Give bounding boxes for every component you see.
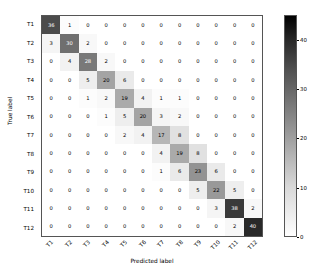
heatmap-cell: 0 bbox=[60, 108, 78, 126]
heatmap-cell: 0 bbox=[115, 199, 133, 217]
heatmap-cell: 0 bbox=[79, 181, 97, 199]
heatmap-cell: 2 bbox=[97, 89, 115, 107]
heatmap-cell: 0 bbox=[207, 108, 225, 126]
heatmap-cell: 0 bbox=[152, 199, 170, 217]
heatmap-cell: 0 bbox=[244, 108, 262, 126]
y-axis-tick-labels: T1T2T3T4T5T6T7T8T9T10T11T12 bbox=[0, 15, 38, 237]
heatmap-cell: 5 bbox=[225, 181, 243, 199]
heatmap-cell: 0 bbox=[115, 163, 133, 181]
colorbar-tick: 20 bbox=[297, 135, 307, 141]
x-axis-tick-wrapper: T8 bbox=[171, 238, 190, 256]
colorbar-tick: 40 bbox=[297, 37, 307, 43]
heatmap-cell: 0 bbox=[79, 108, 97, 126]
heatmap-cell: 0 bbox=[225, 126, 243, 144]
heatmap-cell: 0 bbox=[207, 71, 225, 89]
heatmap-cell: 0 bbox=[152, 16, 170, 34]
heatmap-cell: 0 bbox=[42, 71, 60, 89]
heatmap-cell: 0 bbox=[97, 218, 115, 236]
heatmap-cell: 0 bbox=[60, 144, 78, 162]
y-axis-tick: T5 bbox=[0, 89, 38, 108]
y-axis-tick: T8 bbox=[0, 145, 38, 164]
heatmap-cell: 0 bbox=[79, 16, 97, 34]
x-axis-tick-wrapper: T10 bbox=[208, 238, 227, 256]
x-axis-tick: T3 bbox=[82, 239, 91, 248]
x-axis-tick: T10 bbox=[209, 239, 221, 251]
heatmap-cell: 1 bbox=[97, 108, 115, 126]
heatmap-cell: 30 bbox=[60, 34, 78, 52]
heatmap-cell: 0 bbox=[42, 108, 60, 126]
heatmap-cell: 8 bbox=[189, 144, 207, 162]
heatmap-cell: 0 bbox=[60, 218, 78, 236]
heatmap-cell: 0 bbox=[189, 108, 207, 126]
x-axis-tick-wrapper: T3 bbox=[78, 238, 97, 256]
x-axis-tick: T1 bbox=[45, 239, 54, 248]
heatmap-cell: 3 bbox=[207, 199, 225, 217]
heatmap-cell-grid: 3610000000000330200000000004282000000000… bbox=[42, 16, 262, 236]
heatmap-cell: 2 bbox=[79, 34, 97, 52]
heatmap-cell: 0 bbox=[42, 181, 60, 199]
heatmap-cell: 0 bbox=[42, 163, 60, 181]
heatmap-cell: 0 bbox=[225, 163, 243, 181]
heatmap-cell: 1 bbox=[60, 16, 78, 34]
colorbar-tick: 0 bbox=[297, 234, 303, 240]
heatmap-cell: 0 bbox=[189, 71, 207, 89]
y-axis-tick: T7 bbox=[0, 126, 38, 145]
heatmap-cell: 8 bbox=[170, 126, 188, 144]
heatmap-cell: 5 bbox=[189, 181, 207, 199]
colorbar-gradient bbox=[284, 15, 297, 237]
heatmap-plot-area: 3610000000000330200000000004282000000000… bbox=[41, 15, 263, 237]
heatmap-cell: 0 bbox=[170, 71, 188, 89]
heatmap-cell: 0 bbox=[60, 199, 78, 217]
x-axis-tick-wrapper: T2 bbox=[60, 238, 79, 256]
heatmap-cell: 2 bbox=[170, 108, 188, 126]
heatmap-cell: 0 bbox=[97, 181, 115, 199]
heatmap-cell: 0 bbox=[97, 126, 115, 144]
heatmap-cell: 0 bbox=[42, 89, 60, 107]
heatmap-cell: 0 bbox=[79, 163, 97, 181]
heatmap-cell: 40 bbox=[244, 218, 262, 236]
heatmap-cell: 0 bbox=[152, 34, 170, 52]
heatmap-cell: 0 bbox=[60, 89, 78, 107]
confusion-matrix-figure: True label T1T2T3T4T5T6T7T8T9T10T11T12 3… bbox=[0, 0, 321, 272]
heatmap-cell: 20 bbox=[97, 71, 115, 89]
heatmap-cell: 6 bbox=[207, 163, 225, 181]
heatmap-cell: 0 bbox=[115, 53, 133, 71]
heatmap-cell: 4 bbox=[60, 53, 78, 71]
heatmap-cell: 0 bbox=[170, 34, 188, 52]
heatmap-cell: 0 bbox=[115, 144, 133, 162]
heatmap-cell: 0 bbox=[207, 218, 225, 236]
heatmap-cell: 0 bbox=[42, 144, 60, 162]
heatmap-cell: 0 bbox=[225, 53, 243, 71]
heatmap-cell: 0 bbox=[134, 53, 152, 71]
y-axis-tick: T1 bbox=[0, 15, 38, 34]
heatmap-cell: 0 bbox=[115, 16, 133, 34]
heatmap-cell: 1 bbox=[152, 163, 170, 181]
heatmap-cell: 0 bbox=[115, 181, 133, 199]
colorbar-tick-labels: 010203040 bbox=[297, 15, 319, 237]
heatmap-cell: 2 bbox=[115, 126, 133, 144]
y-axis-tick: T12 bbox=[0, 219, 38, 238]
y-axis-tick: T9 bbox=[0, 163, 38, 182]
x-axis-tick: T12 bbox=[246, 239, 258, 251]
heatmap-cell: 0 bbox=[225, 71, 243, 89]
x-axis-tick-wrapper: T11 bbox=[226, 238, 245, 256]
colorbar-tick: 30 bbox=[297, 86, 307, 92]
heatmap-cell: 0 bbox=[152, 218, 170, 236]
heatmap-cell: 6 bbox=[170, 163, 188, 181]
heatmap-cell: 0 bbox=[60, 181, 78, 199]
heatmap-cell: 0 bbox=[42, 53, 60, 71]
heatmap-cell: 0 bbox=[170, 199, 188, 217]
heatmap-cell: 0 bbox=[244, 181, 262, 199]
heatmap-cell: 0 bbox=[79, 199, 97, 217]
heatmap-cell: 0 bbox=[42, 126, 60, 144]
heatmap-cell: 0 bbox=[189, 126, 207, 144]
heatmap-cell: 0 bbox=[189, 34, 207, 52]
heatmap-cell: 0 bbox=[152, 181, 170, 199]
y-axis-tick: T11 bbox=[0, 200, 38, 219]
heatmap-cell: 0 bbox=[244, 89, 262, 107]
heatmap-cell: 0 bbox=[244, 16, 262, 34]
heatmap-cell: 0 bbox=[170, 16, 188, 34]
heatmap-cell: 6 bbox=[115, 71, 133, 89]
heatmap-cell: 2 bbox=[225, 218, 243, 236]
x-axis-tick: T7 bbox=[156, 239, 165, 248]
